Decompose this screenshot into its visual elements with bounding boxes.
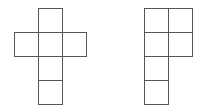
grid-cell [39, 81, 63, 105]
grid-cell [145, 33, 169, 57]
grid-cell [169, 33, 193, 57]
diagram-canvas [0, 0, 201, 108]
grid-cell [39, 57, 63, 81]
grid-cell [63, 33, 87, 57]
grid-cell [39, 9, 63, 33]
grid-cell [145, 9, 169, 33]
p-shape-net-figure [145, 9, 193, 105]
cross-net-figure [15, 9, 87, 105]
grid-cell [39, 33, 63, 57]
grid-cell [145, 81, 169, 105]
grid-cell [145, 57, 169, 81]
grid-cell [15, 33, 39, 57]
grid-cell [169, 9, 193, 33]
